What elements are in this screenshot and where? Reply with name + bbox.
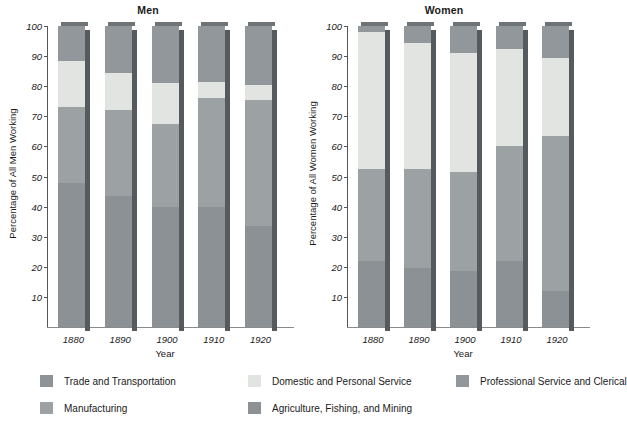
legend-item[interactable]: Trade and Transportation: [40, 375, 176, 387]
bar-segment: [152, 83, 179, 124]
y-axis-tick: [44, 26, 48, 27]
y-axis-tick-label: 50: [31, 171, 42, 182]
legend-item[interactable]: Manufacturing: [40, 402, 127, 414]
bar-side-face: [225, 30, 230, 331]
bar-segment: [105, 73, 132, 111]
bar-women-1920: [542, 26, 569, 327]
bar-segment: [152, 124, 179, 207]
x-axis-tick-label-1920: 1920: [250, 334, 271, 345]
y-axis-tick-label: 90: [31, 51, 42, 62]
x-axis-line: [347, 327, 590, 328]
bar-women-1900: [450, 26, 477, 327]
y-axis-tick: [344, 207, 348, 208]
bar-men-1890: [105, 26, 132, 327]
bar-women-1910: [496, 26, 523, 327]
y-axis-tick-label: 20: [331, 261, 342, 272]
bar-side-face: [477, 30, 482, 331]
y-axis-tick: [44, 56, 48, 57]
y-axis-tick: [344, 267, 348, 268]
bar-side-face: [85, 30, 90, 331]
legend-label: Trade and Transportation: [64, 376, 176, 387]
x-axis-label-men: Year: [155, 348, 174, 359]
x-axis-tick-label-1900: 1900: [454, 334, 475, 345]
y-axis-tick-label: 30: [331, 231, 342, 242]
chart-panel-women: Women Percentage of All Women Working Ye…: [296, 0, 592, 370]
y-axis-tick: [344, 116, 348, 117]
bar-men-1920: [245, 26, 272, 327]
bar-side-face: [179, 30, 184, 331]
bar-segment: [450, 271, 477, 327]
bar-segment: [58, 26, 85, 61]
bar-side-face: [132, 30, 137, 331]
legend-label: Agriculture, Fishing, and Mining: [272, 403, 412, 414]
bar-segment: [152, 207, 179, 327]
x-axis-tick-label-1910: 1910: [203, 334, 224, 345]
bar-segment: [245, 26, 272, 85]
bar-segment: [58, 183, 85, 327]
legend-swatch: [40, 402, 53, 414]
y-axis-tick-label: 50: [331, 171, 342, 182]
y-axis-tick-label: 10: [331, 291, 342, 302]
bar-segment: [496, 26, 523, 49]
bar-segment: [198, 98, 225, 206]
panel-title-men: Men: [0, 4, 296, 16]
y-axis-tick: [344, 146, 348, 147]
y-axis-tick: [44, 297, 48, 298]
x-axis-tick-label-1920: 1920: [546, 334, 567, 345]
bar-segment: [245, 226, 272, 327]
y-axis-label-women: Percentage of All Women Working: [307, 74, 318, 274]
panel-title-women: Women: [296, 4, 592, 16]
bar-segment: [450, 26, 477, 53]
x-axis-label-women: Year: [453, 348, 472, 359]
y-axis-tick-label: 20: [31, 261, 42, 272]
bar-segment: [152, 26, 179, 83]
bar-segment: [450, 53, 477, 172]
legend-item[interactable]: Agriculture, Fishing, and Mining: [248, 402, 412, 414]
y-axis-tick-label: 70: [331, 111, 342, 122]
legend-item[interactable]: Domestic and Personal Service: [248, 375, 412, 387]
x-axis-tick-label-1910: 1910: [500, 334, 521, 345]
bar-segment: [404, 43, 431, 169]
chart-panel-men: Men Percentage of All Men Working Year 1…: [0, 0, 296, 370]
bar-segment: [58, 107, 85, 182]
y-axis-tick-label: 60: [331, 141, 342, 152]
y-axis-tick-label: 60: [31, 141, 42, 152]
bar-men-1910: [198, 26, 225, 327]
bar-segment: [58, 61, 85, 108]
bar-women-1890: [404, 26, 431, 327]
y-axis-tick: [344, 177, 348, 178]
legend-swatch: [456, 375, 469, 387]
bar-side-face: [569, 30, 574, 331]
figure-caption: [2, 419, 422, 427]
bar-segment: [198, 82, 225, 99]
bar-side-face: [431, 30, 436, 331]
y-axis-tick: [44, 86, 48, 87]
legend-label: Professional Service and Clerical: [480, 376, 627, 387]
y-axis-tick-label: 30: [31, 231, 42, 242]
bar-side-face: [272, 30, 277, 331]
x-axis-tick-label-1890: 1890: [408, 334, 429, 345]
legend-label: Manufacturing: [64, 403, 127, 414]
y-axis-tick-label: 80: [331, 81, 342, 92]
bar-segment: [198, 26, 225, 82]
x-axis-tick-label-1880: 1880: [362, 334, 383, 345]
bar-women-1880: [358, 26, 385, 327]
bar-segment: [542, 136, 569, 291]
y-axis-tick: [44, 177, 48, 178]
y-axis-tick: [44, 146, 48, 147]
bar-segment: [404, 169, 431, 268]
x-axis-tick-label-1880: 1880: [63, 334, 84, 345]
y-axis-tick: [344, 237, 348, 238]
bar-segment: [105, 110, 132, 196]
bar-segment: [358, 26, 385, 32]
y-axis-tick-label: 10: [31, 291, 42, 302]
bar-men-1900: [152, 26, 179, 327]
bar-segment: [358, 261, 385, 327]
bar-segment: [245, 100, 272, 226]
bar-segment: [105, 196, 132, 327]
bar-segment: [245, 85, 272, 100]
x-axis-tick-label-1890: 1890: [110, 334, 131, 345]
y-axis-tick: [44, 116, 48, 117]
bar-segment: [198, 207, 225, 327]
legend-item[interactable]: Professional Service and Clerical: [456, 375, 627, 387]
